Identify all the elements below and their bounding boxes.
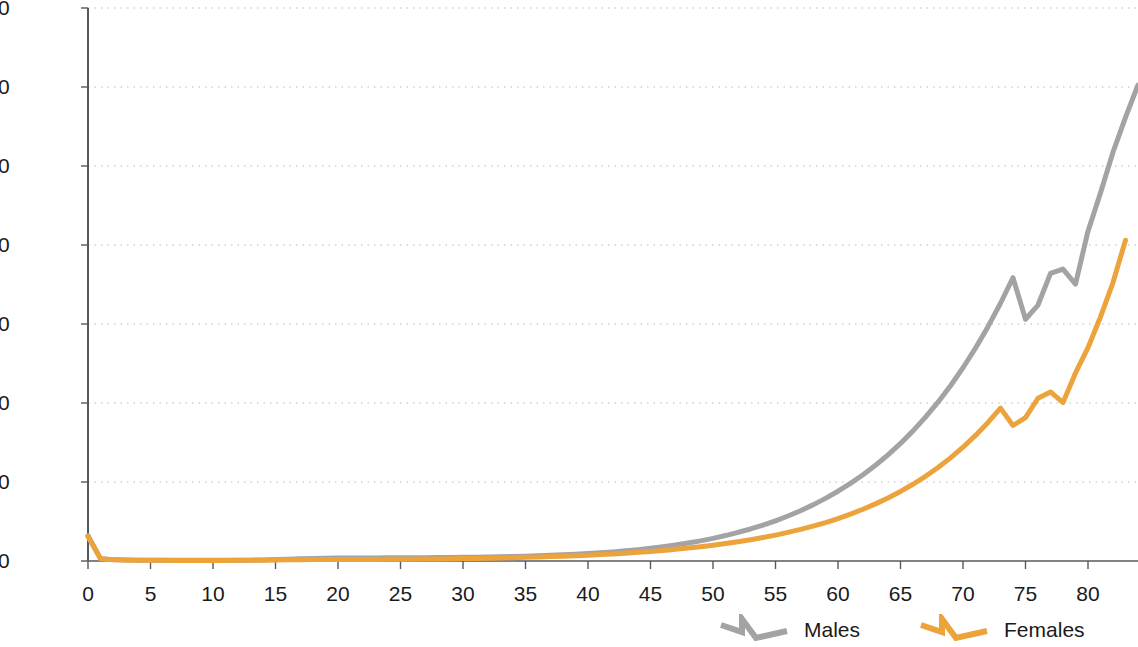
x-axis-tick-label: 20: [326, 583, 349, 604]
x-axis-tick-label: 30: [451, 583, 474, 604]
zigzag-line-icon: [918, 614, 990, 644]
x-axis-tick-label: 45: [639, 583, 662, 604]
x-axis-tick-labels: 05101520253035404550556065707580: [0, 0, 1138, 647]
x-axis-tick-label: 15: [264, 583, 287, 604]
zigzag-line-icon: [718, 614, 790, 644]
legend-label-males: Males: [804, 619, 860, 640]
x-axis-tick-label: 80: [1076, 583, 1099, 604]
chart-legend: Males Females: [718, 614, 1085, 644]
x-axis-tick-label: 55: [764, 583, 787, 604]
x-axis-tick-label: 25: [389, 583, 412, 604]
legend-item-males[interactable]: Males: [718, 614, 860, 644]
x-axis-tick-label: 50: [701, 583, 724, 604]
x-axis-tick-label: 65: [889, 583, 912, 604]
x-axis-tick-label: 35: [514, 583, 537, 604]
x-axis-tick-label: 60: [826, 583, 849, 604]
x-axis-tick-label: 70: [951, 583, 974, 604]
x-axis-tick-label: 75: [1014, 583, 1037, 604]
x-axis-tick-label: 0: [82, 583, 94, 604]
legend-label-females: Females: [1004, 619, 1085, 640]
x-axis-tick-label: 40: [576, 583, 599, 604]
legend-item-females[interactable]: Females: [918, 614, 1085, 644]
x-axis-tick-label: 10: [201, 583, 224, 604]
chart-container: 02 0004 0006 0008 00010 00012 00014 000 …: [0, 0, 1138, 647]
x-axis-tick-label: 5: [145, 583, 157, 604]
